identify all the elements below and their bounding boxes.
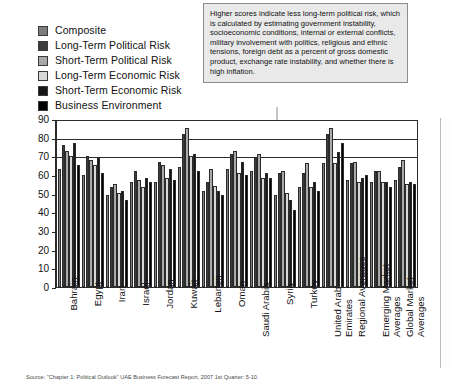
- bar: [326, 134, 329, 287]
- legend-item: Short-Term Political Risk: [38, 54, 182, 67]
- bar: [281, 171, 284, 287]
- bar: [161, 165, 164, 287]
- bar-group: [57, 121, 81, 287]
- bar: [165, 178, 168, 287]
- bar: [209, 169, 212, 287]
- bar: [241, 162, 244, 287]
- x-axis-tick-label: Kuwait: [189, 280, 200, 309]
- x-axis-tick-label: Israel: [141, 282, 152, 305]
- x-axis-tick-label: Jordan: [165, 279, 176, 308]
- bar: [73, 143, 76, 287]
- x-axis-label-cell: Turkey: [297, 292, 321, 382]
- legend-swatch-icon: [38, 101, 48, 111]
- x-axis-tick-label: Lebanon: [213, 275, 224, 312]
- x-axis-tick-label: Regional Averages: [357, 251, 368, 337]
- bar-group: [105, 121, 129, 287]
- x-axis-label-cell: Egypt: [81, 292, 105, 382]
- bar-group: [273, 121, 297, 287]
- bar: [245, 175, 248, 288]
- bar: [113, 184, 116, 287]
- bar: [134, 171, 137, 287]
- bar: [110, 187, 113, 287]
- bar: [89, 160, 92, 287]
- chart-legend: CompositeLong-Term Political RiskShort-T…: [38, 24, 182, 112]
- x-axis-tick-label: Saudi Arabia: [261, 251, 272, 337]
- bar: [130, 182, 133, 287]
- bar: [97, 158, 100, 287]
- x-axis-tick-label: Syria: [285, 283, 296, 305]
- x-axis-label-cell: Global Market Averages: [393, 292, 417, 382]
- bar: [302, 173, 305, 287]
- x-axis-label-cell: Kuwait: [177, 292, 201, 382]
- x-axis-label-cell: Emerging Market Averages: [369, 292, 393, 382]
- bar: [217, 191, 220, 287]
- bar: [197, 171, 200, 287]
- bar: [117, 193, 120, 287]
- bar: [65, 151, 68, 287]
- y-axis-tick-label: 10: [23, 264, 49, 274]
- bar: [141, 187, 144, 287]
- bar: [374, 171, 377, 287]
- legend-item-label: Long-Term Political Risk: [55, 40, 170, 51]
- bar: [317, 191, 320, 287]
- source-note: Source: "Chapter 1: Political Outlook" U…: [26, 374, 259, 381]
- legend-item: Business Environment: [38, 99, 182, 112]
- x-axis-tick-label: Bahrain: [69, 277, 80, 310]
- x-axis-label-cell: Israel: [129, 292, 153, 382]
- bar: [293, 210, 296, 287]
- bar: [169, 169, 172, 287]
- bar: [58, 169, 61, 287]
- bar: [322, 163, 325, 287]
- legend-swatch-icon: [38, 26, 48, 36]
- x-axis-label-cell: Syria: [273, 292, 297, 382]
- y-axis-tick-label: 80: [23, 134, 49, 144]
- y-axis-tick-label: 90: [23, 115, 49, 125]
- legend-item-label: Business Environment: [55, 100, 161, 111]
- y-axis-tick-label: 60: [23, 171, 49, 181]
- bar-group: [201, 121, 225, 287]
- bar: [189, 156, 192, 287]
- bar: [237, 173, 240, 287]
- legend-item-label: Short-Term Economic Risk: [55, 85, 182, 96]
- bar: [226, 169, 229, 287]
- bar: [193, 154, 196, 287]
- x-axis-labels: BahrainEgyptIranIsraelJordanKuwaitLebano…: [57, 292, 417, 382]
- x-axis-label-cell: Iran: [105, 292, 129, 382]
- y-axis-tick-label: 50: [23, 190, 49, 200]
- bar: [149, 182, 152, 287]
- legend-item: Long-Term Political Risk: [38, 39, 182, 52]
- bar: [370, 182, 373, 287]
- legend-swatch-icon: [38, 86, 48, 96]
- y-axis-tick-label: 20: [23, 246, 49, 256]
- x-axis-label-cell: Bahrain: [57, 292, 81, 382]
- x-axis-label-cell: Lebanon: [201, 292, 225, 382]
- callout-box: Higher scores indicate less long-term po…: [203, 3, 408, 83]
- bar: [202, 191, 205, 287]
- bar: [93, 165, 96, 287]
- y-axis-tick-label: 0: [23, 283, 49, 293]
- legend-swatch-icon: [38, 71, 48, 81]
- legend-swatch-icon: [38, 41, 48, 51]
- y-axis-tick-label: 70: [23, 152, 49, 162]
- bar: [121, 191, 124, 287]
- bar: [313, 182, 316, 287]
- bar: [154, 182, 157, 287]
- bar: [77, 165, 80, 287]
- bar: [213, 186, 216, 287]
- page-edge-artifact: [440, 118, 450, 368]
- bar: [233, 151, 236, 287]
- bar: [182, 134, 185, 287]
- bar-group: [129, 121, 153, 287]
- bar: [86, 156, 89, 287]
- bar-group: [225, 121, 249, 287]
- bar: [62, 145, 65, 287]
- legend-item-label: Composite: [55, 25, 106, 36]
- bar: [254, 158, 257, 287]
- legend-item: Long-Term Economic Risk: [38, 69, 182, 82]
- chart-area: 0102030405060708090 BahrainEgyptIranIsra…: [0, 112, 450, 362]
- bar: [230, 154, 233, 287]
- legend-item-label: Long-Term Economic Risk: [55, 70, 180, 81]
- y-axis-tick-mark: [52, 288, 56, 289]
- x-axis-label-cell: Jordan: [153, 292, 177, 382]
- bar: [289, 200, 292, 287]
